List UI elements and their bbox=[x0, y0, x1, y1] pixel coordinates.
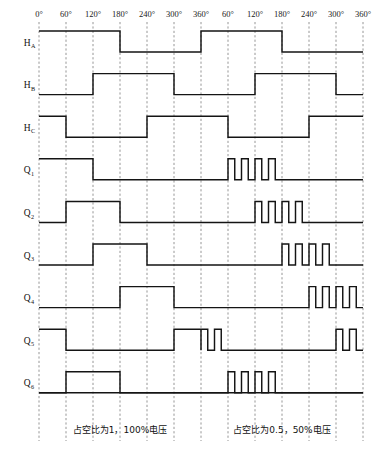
signal-label-q6: Q6 bbox=[24, 378, 34, 390]
signal-label-base: Q bbox=[24, 336, 31, 346]
signal-label-layer: HAHBHCQ1Q2Q3Q4Q5Q6 bbox=[24, 38, 36, 391]
caption-layer: 占空比为1，100%电压占空比为0.5，50%电压 bbox=[73, 424, 331, 435]
axis-tick-label-12: 360° bbox=[355, 9, 371, 19]
axis-tick-label-3: 180° bbox=[112, 9, 128, 19]
timing-diagram-canvas: 0°60°120°180°240°300°360°60°120°180°240°… bbox=[0, 0, 390, 450]
signal-label-base: H bbox=[24, 38, 31, 48]
signal-label-subscript: 6 bbox=[31, 383, 34, 390]
axis-tick-label-0: 0° bbox=[35, 9, 43, 19]
signal-label-base: Q bbox=[24, 378, 31, 388]
signal-label-subscript: C bbox=[31, 127, 35, 134]
axis-tick-label-6: 360° bbox=[193, 9, 209, 19]
signal-label-q1: Q1 bbox=[24, 165, 34, 177]
axis-tick-label-1: 60° bbox=[60, 9, 72, 19]
signal-label-hb: HB bbox=[24, 80, 36, 92]
signal-label-subscript: 3 bbox=[31, 255, 34, 262]
signal-label-q4: Q4 bbox=[24, 293, 34, 305]
signal-label-base: H bbox=[24, 80, 31, 90]
signal-label-subscript: 2 bbox=[31, 213, 34, 220]
signal-label-q2: Q2 bbox=[24, 208, 34, 220]
axis-tick-label-layer: 0°60°120°180°240°300°360°60°120°180°240°… bbox=[35, 9, 371, 19]
signal-label-base: Q bbox=[24, 293, 31, 303]
signal-label-subscript: A bbox=[31, 42, 36, 49]
gridline-layer bbox=[39, 22, 363, 441]
signal-label-base: Q bbox=[24, 208, 31, 218]
signal-label-base: Q bbox=[24, 165, 31, 175]
axis-tick-label-8: 120° bbox=[247, 9, 263, 19]
caption-1: 占空比为0.5，50%电压 bbox=[233, 424, 330, 435]
axis-tick-label-2: 120° bbox=[85, 9, 101, 19]
signal-label-hc: HC bbox=[24, 123, 36, 135]
axis-tick-label-4: 240° bbox=[139, 9, 155, 19]
axis-tick-label-9: 180° bbox=[274, 9, 290, 19]
caption-0: 占空比为1，100%电压 bbox=[73, 424, 167, 435]
axis-tick-label-7: 60° bbox=[222, 9, 234, 19]
axis-tick-label-5: 300° bbox=[166, 9, 182, 19]
signal-label-subscript: 1 bbox=[31, 170, 34, 177]
signal-label-q5: Q5 bbox=[24, 336, 34, 348]
timing-diagram: 0°60°120°180°240°300°360°60°120°180°240°… bbox=[0, 0, 390, 450]
waveform-ha bbox=[39, 31, 363, 52]
signal-label-ha: HA bbox=[24, 38, 36, 50]
signal-label-subscript: 4 bbox=[31, 298, 34, 305]
signal-label-subscript: B bbox=[31, 85, 35, 92]
waveform-q5 bbox=[39, 329, 363, 350]
axis-tick-label-11: 300° bbox=[328, 9, 344, 19]
signal-label-base: Q bbox=[24, 251, 31, 261]
signal-label-q3: Q3 bbox=[24, 251, 34, 263]
axis-tick-label-10: 240° bbox=[301, 9, 317, 19]
signal-label-subscript: 5 bbox=[31, 340, 34, 347]
signal-label-base: H bbox=[24, 123, 31, 133]
